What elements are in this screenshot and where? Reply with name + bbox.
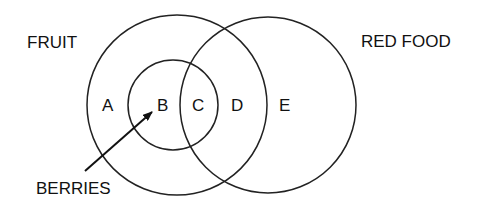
- region-b-label: B: [157, 97, 168, 114]
- region-c-label: C: [192, 97, 204, 114]
- region-a-label: A: [102, 97, 113, 114]
- fruit-label: FRUIT: [27, 34, 77, 51]
- red-food-label: RED FOOD: [361, 33, 451, 50]
- venn-diagram: FRUIT RED FOOD BERRIES A B C D E: [0, 0, 479, 205]
- region-d-label: D: [231, 97, 243, 114]
- berries-circle: [128, 60, 218, 150]
- red-food-circle: [180, 17, 356, 193]
- region-e-label: E: [279, 97, 290, 114]
- berries-label: BERRIES: [36, 180, 111, 197]
